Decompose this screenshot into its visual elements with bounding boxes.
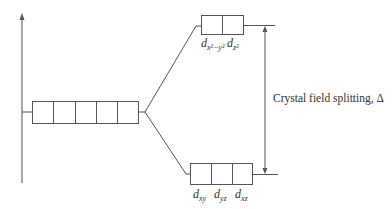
orbital-label-dx2y2: dx²−y²: [201, 36, 224, 52]
orbital-label-dyz: dyz: [214, 187, 227, 203]
splitting-caption: Crystal field splitting, Δ: [273, 92, 384, 104]
energy-diagram: [0, 0, 392, 209]
orbital-label-dxz: dxz: [235, 187, 248, 203]
arrow-down-icon: [263, 168, 268, 174]
splitting-double-arrow: [263, 26, 268, 174]
split-connectors: [139, 26, 202, 174]
arrow-up-icon: [263, 26, 268, 32]
axis-arrow-icon: [20, 13, 25, 20]
orbital-label-dz2: dz²: [227, 36, 239, 52]
orbital-label-dxy: dxy: [193, 187, 206, 203]
degenerate-orbitals: [33, 102, 139, 124]
energy-axis: [20, 13, 25, 183]
